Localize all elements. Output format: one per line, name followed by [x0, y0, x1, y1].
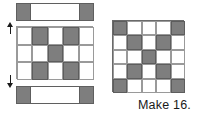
block-cell-r5c5 — [171, 79, 185, 93]
block-cell-r3c5 — [171, 50, 185, 64]
block-cell-r4c3 — [142, 64, 156, 78]
block-cell-r3c3 — [142, 50, 156, 64]
center-cell-r2c5 — [79, 45, 94, 63]
block-cell-r2c2 — [127, 35, 141, 49]
block-cell-r5c1 — [113, 79, 127, 93]
center-cell-r1c4 — [63, 27, 78, 45]
block-cell-r2c3 — [142, 35, 156, 49]
bottom-sashing-strip — [16, 86, 94, 104]
block-cell-r1c3 — [142, 21, 156, 35]
block-cell-r1c5 — [171, 21, 185, 35]
center-cell-r3c4 — [63, 62, 78, 80]
center-cell-r1c2 — [32, 27, 47, 45]
block-cell-r4c1 — [113, 64, 127, 78]
block-cell-r5c4 — [156, 79, 170, 93]
block-cell-r4c4 — [156, 64, 170, 78]
block-cell-r5c3 — [142, 79, 156, 93]
top-sashing-strip — [16, 3, 94, 21]
center-cell-r1c5 — [79, 27, 94, 45]
block-cell-r3c4 — [156, 50, 170, 64]
strip-square-dark-left-bottom — [17, 87, 31, 103]
center-cell-r1c3 — [48, 27, 63, 45]
center-cell-r2c2 — [32, 45, 47, 63]
make-count-caption: Make 16. — [138, 98, 191, 112]
block-cell-r1c4 — [156, 21, 170, 35]
block-cell-r1c2 — [127, 21, 141, 35]
block-cell-r2c4 — [156, 35, 170, 49]
center-cell-r2c3 — [48, 45, 63, 63]
center-cell-r3c5 — [79, 62, 94, 80]
strip-square-dark-left — [17, 4, 31, 20]
quilt-diagram: Make 16. — [0, 0, 205, 118]
block-cell-r2c1 — [113, 35, 127, 49]
center-cell-r3c1 — [17, 62, 32, 80]
block-cell-r3c1 — [113, 50, 127, 64]
center-cell-r2c4 — [63, 45, 78, 63]
block-cell-r1c1 — [113, 21, 127, 35]
join-arrow-up-icon — [6, 22, 15, 35]
join-arrow-down-icon — [6, 75, 15, 88]
block-cell-r2c5 — [171, 35, 185, 49]
center-cell-r1c1 — [17, 27, 32, 45]
center-cell-r3c3 — [48, 62, 63, 80]
block-cell-r5c2 — [127, 79, 141, 93]
strip-square-dark-right — [79, 4, 93, 20]
center-nine-patch-unit — [16, 26, 93, 79]
strip-square-dark-right-bottom — [79, 87, 93, 103]
assembled-block — [112, 20, 184, 92]
center-cell-r3c2 — [32, 62, 47, 80]
block-cell-r4c5 — [171, 64, 185, 78]
block-cell-r4c2 — [127, 64, 141, 78]
block-cell-r3c2 — [127, 50, 141, 64]
center-cell-r2c1 — [17, 45, 32, 63]
